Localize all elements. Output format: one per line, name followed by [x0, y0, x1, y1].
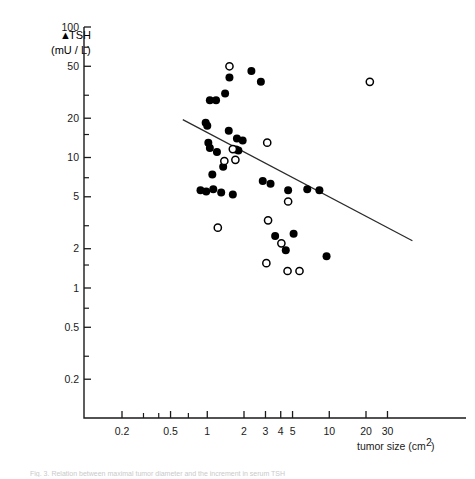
- data-point-open: [232, 156, 239, 163]
- data-point-filled: [323, 252, 331, 260]
- data-point-filled: [206, 144, 214, 152]
- data-point-filled: [303, 185, 311, 193]
- y-tick-label: 0.5: [64, 321, 79, 333]
- x-tick-label: 0.5: [163, 425, 178, 437]
- data-point-open: [264, 139, 271, 146]
- data-point-filled: [257, 78, 265, 86]
- x-tick-label: 0.2: [115, 425, 130, 437]
- data-point-filled: [208, 171, 216, 179]
- regression-line: [183, 120, 413, 241]
- x-tick-label: 30: [382, 425, 394, 437]
- data-point-filled: [213, 148, 221, 156]
- figure-container: ▲ TSH (mU / L) 0.20.5125102050100 0.20.5…: [0, 0, 475, 479]
- y-tick-label: 100: [61, 21, 79, 33]
- data-point-open: [284, 267, 291, 274]
- data-point-filled: [271, 232, 279, 240]
- data-point-filled: [267, 180, 275, 188]
- data-point-open: [264, 217, 271, 224]
- data-point-filled: [209, 185, 217, 193]
- x-tick-label: 1: [204, 425, 210, 437]
- x-tick-label: 10: [323, 425, 335, 437]
- data-point-open: [366, 78, 373, 85]
- data-point-open: [214, 224, 221, 231]
- data-point-filled: [212, 96, 220, 104]
- figure-caption: Fig. 3. Relation between maximal tumor d…: [30, 470, 450, 477]
- y-tick-label: 5: [73, 190, 79, 202]
- scatter-plot: ▲ TSH (mU / L) 0.20.5125102050100 0.20.5…: [0, 0, 475, 479]
- data-point-filled: [202, 187, 210, 195]
- data-point-filled: [225, 127, 233, 135]
- x-tick-label: 2: [241, 425, 247, 437]
- x-axis-title-close-paren: ): [431, 440, 435, 452]
- data-point-open: [229, 145, 236, 152]
- y-axis-ticks: 0.20.5125102050100: [61, 21, 91, 385]
- y-tick-label: 1: [73, 282, 79, 294]
- axis-lines: [84, 27, 466, 418]
- data-point-filled: [259, 177, 267, 185]
- data-point-filled: [239, 136, 247, 144]
- x-axis-title-main: tumor size (cm: [357, 440, 426, 452]
- data-point-filled: [284, 186, 292, 194]
- data-point-open: [278, 240, 285, 247]
- y-tick-label: 50: [67, 60, 79, 72]
- data-point-open: [221, 157, 228, 164]
- data-point-filled: [203, 122, 211, 130]
- data-point-open: [296, 267, 303, 274]
- data-point-filled: [225, 74, 233, 82]
- data-point-filled: [229, 191, 237, 199]
- y-tick-label: 10: [67, 151, 79, 163]
- y-tick-label: 0.2: [64, 373, 79, 385]
- data-point-open: [226, 63, 233, 70]
- data-point-filled: [221, 89, 229, 97]
- data-point-filled: [217, 188, 225, 196]
- data-point-open: [285, 198, 292, 205]
- x-axis-title: tumor size (cm 2 ): [357, 436, 435, 452]
- x-axis-ticks: 0.20.512345102030: [115, 411, 394, 437]
- data-point-filled: [247, 67, 255, 75]
- x-tick-label: 3: [263, 425, 269, 437]
- y-axis-label-units: (mU / L): [51, 44, 91, 56]
- x-tick-label: 5: [290, 425, 296, 437]
- y-axis-label: ▲ TSH (mU / L): [51, 29, 91, 56]
- data-point-filled: [290, 230, 298, 238]
- y-tick-label: 20: [67, 112, 79, 124]
- data-point-filled: [315, 186, 323, 194]
- data-point-open: [263, 260, 270, 267]
- y-tick-label: 2: [73, 242, 79, 254]
- x-tick-label: 20: [360, 425, 372, 437]
- x-tick-label: 4: [278, 425, 284, 437]
- data-points-open: [214, 63, 373, 275]
